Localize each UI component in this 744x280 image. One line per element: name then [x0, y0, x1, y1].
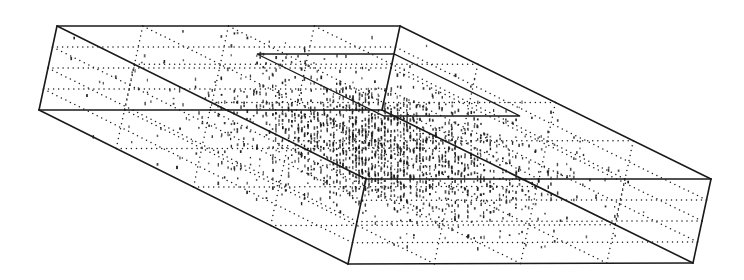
- box-edge: [348, 179, 366, 264]
- box-edge: [57, 26, 366, 179]
- wireframe-box-diagram: [0, 0, 744, 280]
- box-edge: [39, 110, 348, 264]
- box-edge: [382, 110, 693, 263]
- box-edge: [693, 179, 711, 263]
- box-edge: [348, 263, 693, 264]
- figure-canvas: [0, 0, 744, 280]
- box-edge: [400, 26, 711, 179]
- box-edge: [39, 26, 57, 110]
- inner-dense-region-outline: [257, 54, 520, 116]
